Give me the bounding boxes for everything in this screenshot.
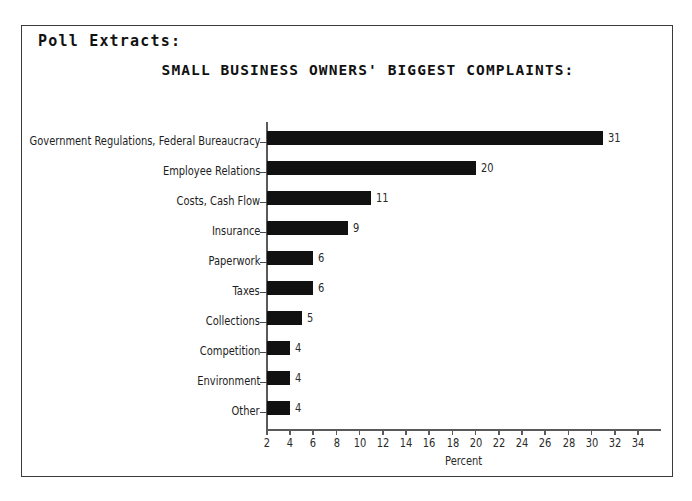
- bar: [267, 251, 313, 265]
- x-axis-tick: [591, 429, 593, 435]
- bar-row: Insurance9: [22, 218, 674, 248]
- x-axis-tick-label: 14: [400, 436, 413, 450]
- bar-value-label: 4: [295, 371, 301, 385]
- x-axis-tick: [266, 429, 268, 435]
- bar-row: Paperwork6: [22, 248, 674, 278]
- category-tick: [260, 322, 267, 324]
- x-axis-tick: [359, 429, 361, 435]
- bar: [267, 281, 313, 295]
- x-axis-tick: [428, 429, 430, 435]
- category-label: Government Regulations, Federal Bureaucr…: [29, 134, 260, 148]
- x-axis-tick: [452, 429, 454, 435]
- x-axis-tick: [382, 429, 384, 435]
- bar-row: Competition4: [22, 338, 674, 368]
- bar-value-label: 5: [307, 311, 313, 325]
- category-label: Costs, Cash Flow: [176, 194, 260, 208]
- x-axis-tick-label: 8: [333, 436, 339, 450]
- bar-row: Employee Relations20: [22, 158, 674, 188]
- x-axis-tick: [544, 429, 546, 435]
- bar-row: Taxes6: [22, 278, 674, 308]
- x-axis-tick-label: 2: [264, 436, 270, 450]
- bar: [267, 221, 348, 235]
- x-axis-title: Percent: [266, 454, 661, 468]
- x-axis-tick: [336, 429, 338, 435]
- bar: [267, 191, 371, 205]
- x-axis-tick: [614, 429, 616, 435]
- bar-value-label: 31: [608, 131, 621, 145]
- x-axis-tick: [498, 429, 500, 435]
- x-axis-tick-label: 4: [287, 436, 293, 450]
- x-axis-tick: [568, 429, 570, 435]
- bar-row: Costs, Cash Flow11: [22, 188, 674, 218]
- x-axis-tick-label: 26: [539, 436, 552, 450]
- category-tick: [260, 232, 267, 234]
- bar-value-label: 6: [318, 251, 324, 265]
- x-axis-tick-label: 20: [470, 436, 483, 450]
- x-axis-tick-label: 30: [586, 436, 599, 450]
- category-label: Taxes: [233, 284, 260, 298]
- category-label: Other: [232, 404, 260, 418]
- bar-row: Other4: [22, 398, 674, 428]
- bar-row: Government Regulations, Federal Bureaucr…: [22, 128, 674, 158]
- x-axis-tick: [521, 429, 523, 435]
- category-tick: [260, 142, 267, 144]
- bar-chart-plot-area: Government Regulations, Federal Bureaucr…: [22, 26, 674, 478]
- x-axis-tick: [312, 429, 314, 435]
- x-axis-tick: [405, 429, 407, 435]
- bar: [267, 401, 290, 415]
- bar: [267, 311, 302, 325]
- x-axis-title-text: Percent: [445, 454, 482, 468]
- bar-row: Collections5: [22, 308, 674, 338]
- x-axis-tick-label: 16: [423, 436, 436, 450]
- bar-value-label: 9: [353, 221, 359, 235]
- bar: [267, 161, 476, 175]
- bar: [267, 341, 290, 355]
- category-label: Environment: [197, 374, 260, 388]
- category-label: Paperwork: [208, 254, 260, 268]
- bar-value-label: 4: [295, 341, 301, 355]
- bar: [267, 371, 290, 385]
- value-axis-line: [266, 429, 661, 431]
- category-tick: [260, 262, 267, 264]
- category-label: Employee Relations: [162, 164, 260, 178]
- bar-value-label: 6: [318, 281, 324, 295]
- x-axis-tick-label: 32: [609, 436, 622, 450]
- x-axis-tick: [289, 429, 291, 435]
- bar: [267, 131, 603, 145]
- x-axis-tick-label: 18: [446, 436, 459, 450]
- category-tick: [260, 412, 267, 414]
- bar-row: Environment4: [22, 368, 674, 398]
- x-axis-tick-label: 24: [516, 436, 529, 450]
- poll-extract-frame: Poll Extracts: SMALL BUSINESS OWNERS' BI…: [21, 25, 673, 477]
- bar-value-label: 4: [295, 401, 301, 415]
- x-axis-tick-label: 12: [377, 436, 390, 450]
- category-tick: [260, 202, 267, 204]
- x-axis-tick-label: 6: [310, 436, 316, 450]
- category-label: Competition: [199, 344, 260, 358]
- x-axis-tick-label: 10: [354, 436, 367, 450]
- category-label: Insurance: [211, 224, 260, 238]
- bar-value-label: 20: [481, 161, 494, 175]
- bar-value-label: 11: [376, 191, 389, 205]
- category-label: Collections: [206, 314, 260, 328]
- category-tick: [260, 352, 267, 354]
- category-tick: [260, 292, 267, 294]
- x-axis-tick-label: 22: [493, 436, 506, 450]
- x-axis-tick-label: 34: [632, 436, 645, 450]
- category-tick: [260, 382, 267, 384]
- category-tick: [260, 172, 267, 174]
- x-axis-tick: [637, 429, 639, 435]
- x-axis-tick-label: 28: [562, 436, 575, 450]
- x-axis-tick: [475, 429, 477, 435]
